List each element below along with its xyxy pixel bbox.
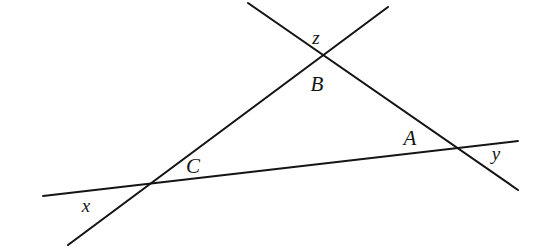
label-a: A [402,126,417,150]
label-c: C [186,154,201,178]
label-x: x [81,195,91,216]
diagram-background [0,0,537,251]
label-z: z [311,27,320,48]
label-b: B [311,72,324,96]
geometry-canvas: zBAyCx [0,0,537,251]
geometry-diagram: zBAyCx [0,0,537,251]
label-y: y [490,143,501,164]
